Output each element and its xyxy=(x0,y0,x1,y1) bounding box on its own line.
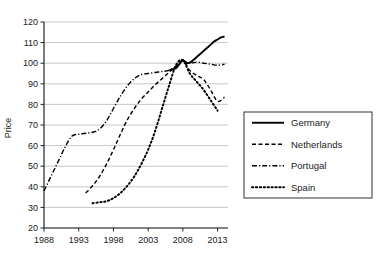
y-tick-label: 40 xyxy=(28,182,38,192)
x-tick-label: 2013 xyxy=(208,235,228,245)
x-tick-label: 1993 xyxy=(69,235,89,245)
y-axis-tick-labels: 1201101009080706050403020 xyxy=(23,17,38,233)
data-series-group xyxy=(44,36,225,203)
chart-canvas: 1201101009080706050403020 19881993199820… xyxy=(0,0,380,255)
x-axis-tick-labels: 198819931998200320082013 xyxy=(34,235,228,245)
x-tick-label: 2008 xyxy=(173,235,193,245)
y-tick-label: 90 xyxy=(28,79,38,89)
legend-label-spain: Spain xyxy=(291,182,315,193)
series-line-portugal xyxy=(44,61,225,191)
legend-label-germany: Germany xyxy=(291,117,330,128)
y-tick-label: 100 xyxy=(23,58,38,68)
legend: GermanyNetherlandsPortugalSpain xyxy=(244,112,372,198)
series-line-spain xyxy=(93,60,218,204)
x-tick-label: 1998 xyxy=(103,235,123,245)
y-axis-label: Price xyxy=(3,118,13,139)
x-tick-label: 1988 xyxy=(34,235,54,245)
x-tick-label: 2003 xyxy=(138,235,158,245)
y-tick-label: 80 xyxy=(28,100,38,110)
y-tick-label: 60 xyxy=(28,141,38,151)
y-tick-label: 30 xyxy=(28,203,38,213)
y-tick-label: 50 xyxy=(28,161,38,171)
legend-label-netherlands: Netherlands xyxy=(291,139,342,150)
y-tick-label: 70 xyxy=(28,120,38,130)
y-tick-label: 20 xyxy=(28,223,38,233)
y-tick-label: 120 xyxy=(23,17,38,27)
series-line-netherlands xyxy=(86,61,225,193)
legend-label-portugal: Portugal xyxy=(291,160,326,171)
line-chart: 1201101009080706050403020 19881993199820… xyxy=(0,0,380,255)
y-tick-label: 110 xyxy=(24,38,38,48)
